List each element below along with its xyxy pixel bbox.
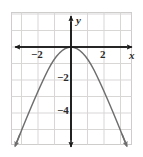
coordinate-plane — [0, 0, 143, 157]
y-tick-label-neg4: −4 — [57, 105, 69, 116]
x-axis-name: x — [129, 50, 135, 61]
graph-figure: −2 2 −2 −4 x y — [0, 0, 143, 157]
x-tick-label-neg2: −2 — [31, 49, 43, 60]
y-tick-label-neg2: −2 — [57, 72, 69, 83]
y-axis-name: y — [76, 15, 81, 26]
x-tick-label-pos2: 2 — [100, 49, 106, 60]
